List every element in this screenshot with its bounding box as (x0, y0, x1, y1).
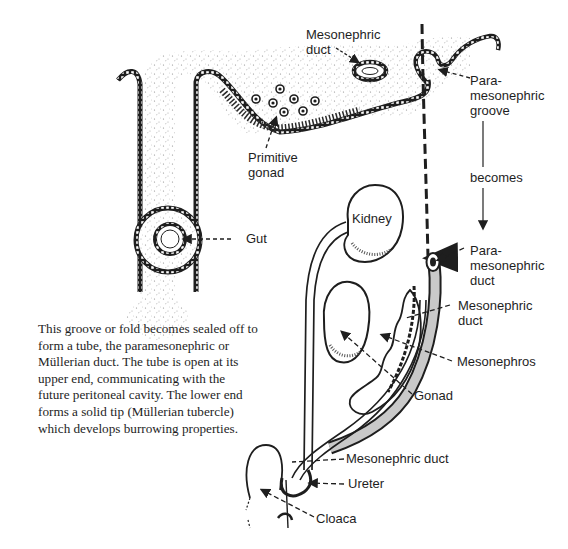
label-mesonephric-duct-upper: Mesonephric duct (458, 298, 532, 328)
label-primitive-gonad: Primitive gonad (248, 150, 298, 180)
label-mesonephric-duct-top: Mesonephric duct (306, 27, 380, 57)
label-gonad: Gonad (414, 388, 453, 403)
cross-section-embryo (118, 36, 499, 340)
label-ureter: Ureter (348, 476, 384, 491)
label-kidney: Kidney (352, 211, 392, 226)
label-mesonephros: Mesonephros (457, 354, 536, 369)
label-gut: Gut (246, 231, 267, 246)
label-mesonephric-duct-lower: Mesonephric duct (346, 451, 449, 466)
diagram-canvas: Mesonephric duct Para- mesonephric groov… (0, 0, 568, 549)
description-paragraph: This groove or fold becomes sealed off t… (38, 321, 258, 437)
label-paramesonephric-groove: Para- mesonephric groove (470, 73, 544, 118)
label-paramesonephric-duct: Para- mesonephric duct (470, 243, 544, 288)
label-cloaca: Cloaca (316, 511, 356, 526)
label-becomes: becomes (470, 170, 523, 185)
urogenital-ridge (246, 185, 440, 528)
